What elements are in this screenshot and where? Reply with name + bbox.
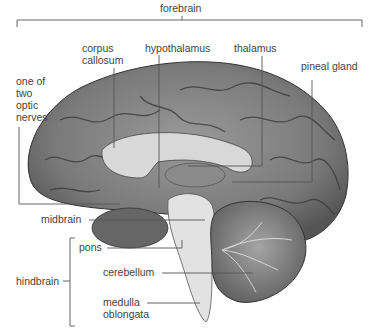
label-optic-nerves-line4: nerves <box>16 112 48 123</box>
label-thalamus: thalamus <box>234 43 277 54</box>
label-cerebellum: cerebellum <box>103 267 154 278</box>
label-pons: pons <box>79 242 102 253</box>
lower-lobe <box>92 208 168 248</box>
label-optic-nerves-line3: optic <box>16 100 38 111</box>
label-corpus-callosum-line1: corpus <box>82 43 114 54</box>
hindbrain-bracket <box>70 238 75 326</box>
label-forebrain: forebrain <box>160 3 201 14</box>
label-medulla-line1: medulla <box>103 297 140 308</box>
label-pineal-gland: pineal gland <box>301 61 358 72</box>
label-hindbrain: hindbrain <box>16 276 59 287</box>
label-optic-nerves-line1: one of <box>16 76 45 87</box>
thalamus-shape <box>165 163 225 187</box>
label-optic-nerves-line2: two <box>16 88 32 99</box>
forebrain-bracket <box>17 20 362 27</box>
label-hypothalamus: hypothalamus <box>145 43 210 54</box>
label-medulla-line2: oblongata <box>103 309 149 320</box>
label-corpus-callosum-line2: callosum <box>82 55 123 66</box>
label-midbrain: midbrain <box>41 214 81 225</box>
